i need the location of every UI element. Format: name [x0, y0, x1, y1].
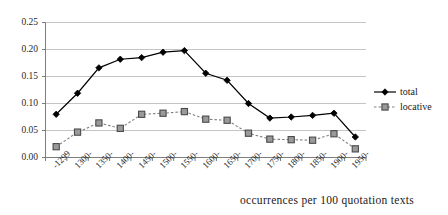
data-point [245, 130, 251, 136]
chart-figure: 0.000.050.100.150.200.25-12991300-1350-1… [0, 0, 448, 215]
y-axis-tick-label: 0.15 [4, 72, 38, 82]
data-point [288, 137, 294, 143]
data-point [117, 56, 123, 62]
data-point [309, 112, 315, 118]
data-point [203, 116, 209, 122]
chart-caption: occurrences per 100 quotation texts [240, 194, 414, 206]
data-point [267, 136, 273, 142]
data-point [224, 117, 230, 123]
data-point [288, 114, 294, 120]
data-point [138, 54, 144, 60]
legend-label-total: total [400, 87, 418, 97]
data-point [309, 137, 315, 143]
y-axis-tick-label: 0.25 [4, 18, 38, 28]
legend [374, 89, 396, 110]
data-point [160, 49, 166, 55]
y-axis-tick-label: 0.00 [4, 153, 38, 163]
data-point [331, 131, 337, 137]
y-axis-tick-label: 0.10 [4, 99, 38, 109]
chart-canvas [0, 0, 448, 215]
data-point [160, 110, 166, 116]
data-point [74, 129, 80, 135]
y-axis-tick-label: 0.20 [4, 45, 38, 55]
data-point [96, 120, 102, 126]
y-tick-marks [42, 23, 46, 158]
legend-marker-total [382, 89, 388, 95]
y-axis-tick-label: 0.05 [4, 126, 38, 136]
legend-marker-locative [382, 104, 388, 110]
data-point [181, 109, 187, 115]
data-point [53, 144, 59, 150]
data-point [117, 125, 123, 131]
data-point [352, 146, 358, 152]
data-point [139, 111, 145, 117]
legend-label-locative: locative [400, 102, 432, 112]
